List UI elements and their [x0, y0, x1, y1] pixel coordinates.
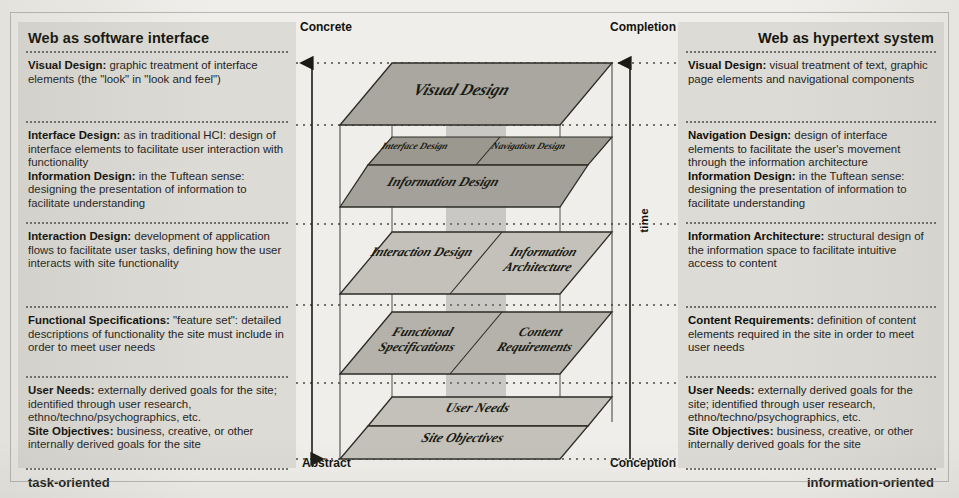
plane-site-objectives — [340, 426, 588, 459]
left-orientation-label: task-oriented — [18, 470, 296, 490]
entry: Information Design: in the Tuftean sense… — [688, 170, 934, 211]
plane-interface-navigation — [368, 137, 612, 165]
plane-user-needs — [368, 397, 612, 426]
divider-dotted — [26, 468, 288, 470]
right-column-panel: Web as hypertext system Visual Design: v… — [678, 22, 944, 468]
entry: User Needs: externally derived goals for… — [688, 384, 934, 425]
entry-term: Information Architecture: — [688, 230, 824, 242]
left-cell-structure: Interaction Design: development of appli… — [18, 224, 296, 301]
plane-interaction-information-architecture — [340, 232, 612, 294]
entry: Site Objectives: business, creative, or … — [688, 425, 934, 452]
plane-functional-content — [340, 312, 612, 374]
plane-visual-design — [340, 63, 612, 125]
entry: Interface Design: as in traditional HCI:… — [28, 129, 286, 170]
right-cell-surface: Visual Design: visual treatment of text,… — [678, 53, 944, 116]
entry-term: Functional Specifications: — [28, 314, 170, 326]
entry-term: Interaction Design: — [28, 230, 131, 242]
divider-dotted — [686, 121, 936, 123]
entry-term: User Needs: — [688, 384, 754, 396]
right-cell-skeleton: Navigation Design: design of interface e… — [678, 123, 944, 217]
divider-dotted — [686, 306, 936, 308]
entry-term: Site Objectives: — [28, 425, 113, 437]
left-cell-strategy: User Needs: externally derived goals for… — [18, 378, 296, 463]
entry: Information Architecture: structural des… — [688, 230, 934, 271]
divider-dotted — [26, 376, 288, 378]
right-cell-structure: Information Architecture: structural des… — [678, 224, 944, 301]
entry: Functional Specifications: "feature set"… — [28, 314, 286, 355]
entry: User Needs: externally derived goals for… — [28, 384, 286, 425]
entry: Information Design: in the Tuftean sense… — [28, 170, 286, 211]
entry-term: Content Requirements: — [688, 314, 814, 326]
entry-term: Interface Design: — [28, 129, 120, 141]
entry: Visual Design: graphic treatment of inte… — [28, 59, 286, 86]
divider-dotted — [686, 376, 936, 378]
left-column-heading: Web as software interface — [18, 22, 296, 46]
entry-term: Site Objectives: — [688, 425, 773, 437]
right-orientation-label: information-oriented — [678, 470, 944, 490]
right-cell-strategy: User Needs: externally derived goals for… — [678, 378, 944, 463]
plane-information-design — [340, 165, 588, 207]
diagram-page: Web as software interface Visual Design:… — [0, 0, 959, 498]
entry: Visual Design: visual treatment of text,… — [688, 59, 934, 86]
entry-term: Visual Design: — [28, 59, 106, 71]
left-cell-scope: Functional Specifications: "feature set"… — [18, 308, 296, 371]
divider-dotted — [26, 306, 288, 308]
entry-term: User Needs: — [28, 384, 94, 396]
entry-term: Visual Design: — [688, 59, 766, 71]
divider-dotted — [26, 222, 288, 224]
entry-term: Information Design: — [688, 170, 796, 182]
left-cell-skeleton: Interface Design: as in traditional HCI:… — [18, 123, 296, 217]
entry: Navigation Design: design of interface e… — [688, 129, 934, 170]
divider-dotted — [26, 51, 288, 53]
planes-svg — [296, 22, 678, 482]
entry-term: Information Design: — [28, 170, 136, 182]
entry: Interaction Design: development of appli… — [28, 230, 286, 271]
left-column-panel: Web as software interface Visual Design:… — [18, 22, 296, 468]
right-column-heading: Web as hypertext system — [678, 22, 944, 46]
divider-dotted — [686, 222, 936, 224]
entry: Site Objectives: business, creative, or … — [28, 425, 286, 452]
left-cell-surface: Visual Design: graphic treatment of inte… — [18, 53, 296, 116]
planes-diagram: Concrete Abstract Completion Conception … — [296, 22, 678, 482]
entry-term: Navigation Design: — [688, 129, 791, 141]
divider-dotted — [686, 51, 936, 53]
divider-dotted — [26, 121, 288, 123]
right-cell-scope: Content Requirements: definition of cont… — [678, 308, 944, 371]
entry: Content Requirements: definition of cont… — [688, 314, 934, 355]
divider-dotted — [686, 468, 936, 470]
